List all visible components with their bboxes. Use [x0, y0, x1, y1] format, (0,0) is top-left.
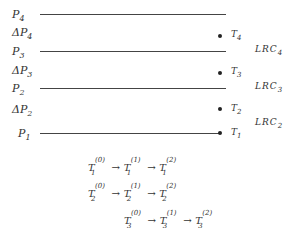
level-line-p3 — [40, 51, 226, 52]
point-label-t3: T3 — [231, 66, 241, 79]
level-line-p1 — [40, 133, 220, 134]
point-label-t2: T2 — [231, 103, 241, 116]
point-label-t4: T4 — [231, 29, 241, 42]
sequence-t3: T(0)3→T(1)3→T(2)3 — [124, 215, 203, 226]
point-label-t1: T1 — [231, 127, 241, 140]
point-t3 — [218, 71, 222, 75]
level-line-p4 — [40, 14, 226, 15]
level-label-p3: P3 — [12, 46, 25, 60]
delta-label-p2: ΔP2 — [12, 104, 32, 118]
lrc-label-3: LRC3 — [255, 81, 283, 94]
sequence-t2: T(0)2→T(1)2→T(2)2 — [88, 188, 167, 199]
sequence-t1: T(0)1→T(1)1→T(2)1 — [88, 162, 167, 173]
point-t2 — [218, 107, 222, 111]
level-label-p2: P2 — [12, 83, 25, 97]
level-label-p1: P1 — [18, 128, 31, 142]
delta-label-p4: ΔP4 — [12, 27, 32, 41]
point-t1 — [218, 131, 222, 135]
lrc-label-2: LRC2 — [255, 117, 283, 130]
lrc-label-4: LRC4 — [255, 44, 283, 57]
point-t4 — [218, 34, 222, 38]
level-line-p2 — [40, 88, 226, 89]
level-label-p4: P4 — [12, 9, 25, 23]
delta-label-p3: ΔP3 — [12, 65, 32, 79]
